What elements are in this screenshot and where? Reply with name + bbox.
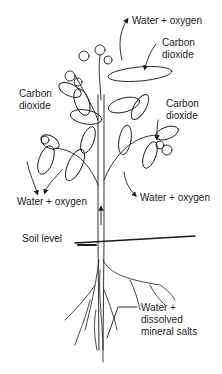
soil-surface: [75, 236, 195, 245]
left-branch: [55, 148, 98, 185]
label-left-water-oxygen: Water + oxygen: [17, 196, 87, 207]
label-roots-2: dissolved: [141, 314, 183, 325]
label-roots-1: Water +: [141, 302, 176, 313]
label-right-water-oxygen: Water + oxygen: [140, 192, 210, 203]
flowers: [41, 45, 172, 155]
label-soil-level: Soil level: [22, 233, 62, 244]
label-left-carbon-dioxide-2: dioxide: [19, 100, 51, 111]
label-right-carbon-dioxide-2: dioxide: [166, 110, 198, 121]
leaves: [34, 64, 180, 183]
label-right-carbon-dioxide-1: Carbon: [166, 98, 199, 109]
label-top-water-oxygen: Water + oxygen: [132, 15, 202, 26]
label-left-carbon-dioxide-1: Carbon: [19, 88, 52, 99]
label-arrows: [27, 20, 158, 338]
label-top-carbon-dioxide-1: Carbon: [162, 37, 195, 48]
label-top-carbon-dioxide-2: dioxide: [162, 49, 194, 60]
label-roots-3: mineral salts: [141, 326, 197, 337]
